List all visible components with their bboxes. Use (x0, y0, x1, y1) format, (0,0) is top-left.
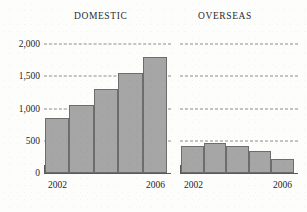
x-tick-label-last-overseas: 2006 (273, 180, 292, 190)
bar (181, 146, 204, 173)
bar-chart-figure: DOMESTIC OVERSEAS 05001,0001,5002,000 20… (0, 0, 307, 212)
bar (271, 159, 294, 173)
baseline-overseas (180, 173, 298, 174)
x-tick-label-first-overseas: 2002 (184, 180, 203, 190)
y-tick-label-1500: 1,500 (2, 71, 40, 81)
axis-spine-domestic (44, 165, 45, 174)
plot-panel-domestic (44, 44, 171, 174)
bar (204, 143, 227, 173)
bar-group-overseas (181, 44, 294, 173)
bar (118, 73, 142, 173)
y-tick-label-0: 0 (2, 168, 40, 178)
y-tick-label-1000: 1,000 (2, 104, 40, 114)
y-axis: 05001,0001,5002,000 (0, 0, 40, 212)
x-axis-labels-domestic: 2002 2006 (44, 180, 171, 196)
y-tick-label-500: 500 (2, 136, 40, 146)
bar (69, 105, 93, 173)
bar (226, 146, 249, 173)
baseline-domestic (44, 173, 171, 174)
x-tick-label-last-domestic: 2006 (146, 180, 165, 190)
x-tick-label-first-domestic: 2002 (48, 180, 67, 190)
axis-spine-overseas (180, 165, 181, 174)
y-tick-label-2000: 2,000 (2, 39, 40, 49)
panel-title-domestic: DOMESTIC (74, 11, 127, 21)
panel-title-overseas: OVERSEAS (198, 11, 252, 21)
bar (249, 151, 272, 173)
bar (45, 118, 69, 173)
plot-panel-overseas (180, 44, 298, 174)
bar (94, 89, 118, 173)
bar (143, 57, 167, 173)
x-axis-labels-overseas: 2002 2006 (180, 180, 298, 196)
bar-group-domestic (45, 44, 167, 173)
